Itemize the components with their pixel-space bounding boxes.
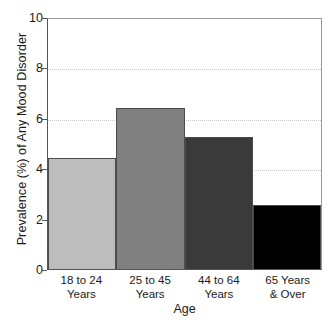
plot-area — [47, 18, 322, 270]
bar — [185, 137, 253, 269]
bars-group — [48, 19, 321, 269]
x-tick-label-line: 18 to 24 — [47, 274, 116, 288]
x-tick-label: 18 to 24Years — [47, 274, 116, 301]
x-tick-label-line: 44 to 64 — [185, 274, 254, 288]
y-tick-mark — [42, 220, 47, 221]
x-axis-title: Age — [47, 302, 322, 316]
bar — [116, 108, 184, 269]
y-tick-label: 8 — [19, 61, 43, 75]
y-tick-mark — [42, 68, 47, 69]
x-tick-label: 44 to 64Years — [185, 274, 254, 301]
x-tick-label-line: Years — [116, 288, 185, 302]
bar-chart-figure: Prevalence (%) of Any Mood Disorder 0246… — [0, 0, 332, 323]
y-tick-label: 10 — [19, 11, 43, 25]
x-tick-label-line: 25 to 45 — [116, 274, 185, 288]
y-tick-mark — [42, 18, 47, 19]
y-axis-title: Prevalence (%) of Any Mood Disorder — [14, 8, 30, 270]
y-tick-label: 2 — [19, 213, 43, 227]
x-tick-label: 65 Years& Over — [253, 274, 322, 301]
y-tick-mark — [42, 119, 47, 120]
x-tick-label: 25 to 45Years — [116, 274, 185, 301]
y-tick-label: 4 — [19, 162, 43, 176]
x-tick-label-line: Years — [47, 288, 116, 302]
bar — [253, 205, 321, 269]
y-tick-mark — [42, 169, 47, 170]
x-tick-label-line: & Over — [253, 288, 322, 302]
x-axis-tick-labels: 18 to 24Years25 to 45Years44 to 64Years6… — [47, 274, 322, 301]
bar — [48, 158, 116, 269]
y-tick-label: 6 — [19, 112, 43, 126]
y-tick-label: 0 — [19, 263, 43, 277]
x-tick-label-line: 65 Years — [253, 274, 322, 288]
x-tick-label-line: Years — [185, 288, 254, 302]
y-tick-mark — [42, 270, 47, 271]
